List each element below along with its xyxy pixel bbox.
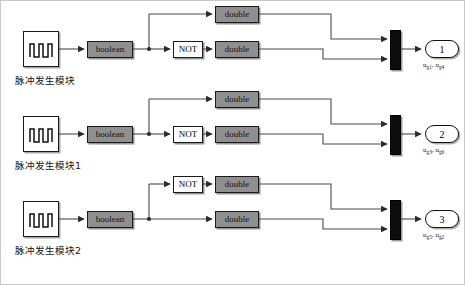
signal-wire [259, 49, 387, 59]
pulse-generator-icon [29, 123, 53, 145]
output-port-2[interactable]: 2 [425, 125, 459, 143]
pulse-generator-block-3[interactable] [23, 201, 59, 237]
wire-junction [147, 132, 151, 136]
output-port-caption-2: ug3, ug6 [423, 146, 444, 154]
not-gate-block-1-bottom[interactable]: NOT [173, 41, 203, 58]
double-cast-block-2-bottom[interactable]: double [215, 126, 259, 143]
signal-wire [259, 184, 387, 209]
pulse-generator-block-1[interactable] [23, 31, 59, 67]
signal-wire [259, 99, 387, 124]
wire-junction [147, 47, 151, 51]
source-caption-3: 脉冲发生模块2 [15, 243, 81, 257]
double-cast-block-3-top[interactable]: double [215, 176, 259, 193]
double-cast-block-3-bottom[interactable]: double [215, 211, 259, 228]
signal-wire [259, 14, 387, 39]
source-caption-2: 脉冲发生模块1 [15, 158, 81, 172]
pulse-generator-icon [29, 38, 53, 60]
not-gate-block-3-top[interactable]: NOT [173, 176, 203, 193]
double-cast-block-2-top[interactable]: double [215, 91, 259, 108]
output-port-caption-3: ug5, ug2 [423, 231, 444, 239]
mux-bar-icon-2[interactable] [390, 115, 401, 155]
double-cast-block-1-bottom[interactable]: double [215, 41, 259, 58]
signal-wire [259, 134, 387, 144]
boolean-cast-block-3[interactable]: boolean [87, 211, 133, 228]
double-cast-block-1-top[interactable]: double [215, 6, 259, 23]
output-port-caption-1: ug1, ug4 [423, 61, 444, 69]
boolean-cast-block-2[interactable]: boolean [87, 126, 133, 143]
signal-wire [259, 219, 387, 229]
output-port-1[interactable]: 1 [425, 40, 459, 58]
output-port-3[interactable]: 3 [425, 210, 459, 228]
mux-bar-icon-3[interactable] [390, 200, 401, 240]
boolean-cast-block-1[interactable]: boolean [87, 41, 133, 58]
pulse-generator-icon [29, 208, 53, 230]
wire-junction [147, 217, 151, 221]
source-caption-1: 脉冲发生模块 [15, 73, 75, 87]
pulse-generator-block-2[interactable] [23, 116, 59, 152]
simulink-pulse-routing-diagram: 脉冲发生模块booleandoubleNOTdouble1ug1, ug4脉冲发… [0, 0, 465, 285]
mux-bar-icon-1[interactable] [390, 30, 401, 70]
not-gate-block-2-bottom[interactable]: NOT [173, 126, 203, 143]
